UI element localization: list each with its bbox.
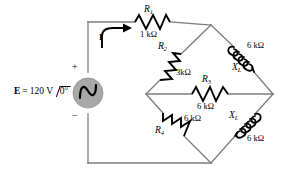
resistor-r1-ref: R1 bbox=[144, 5, 153, 15]
resistor-r3-ref: R3 bbox=[202, 75, 211, 85]
circuit-diagram: E=120 V0° + − I R1 1 kΩ R2 3kΩ XL 6 kΩ R… bbox=[0, 0, 283, 180]
resistor-r2-value: 3kΩ bbox=[176, 68, 191, 77]
current-arrow-icon bbox=[102, 28, 123, 48]
source-minus-terminal: − bbox=[72, 111, 78, 121]
source-symbol-e: E bbox=[14, 86, 20, 96]
resistor-r3-symbol bbox=[192, 87, 228, 101]
wire-r2-upper bbox=[181, 25, 211, 54]
source-plus-terminal: + bbox=[72, 62, 78, 72]
wire-xl1-lower bbox=[254, 72, 273, 94]
inductor-xl-upper-value: 6 kΩ bbox=[247, 41, 264, 50]
current-arrowhead-icon bbox=[123, 24, 132, 33]
resistor-r4-value: 6 kΩ bbox=[184, 114, 201, 123]
current-label: I bbox=[99, 33, 102, 42]
wire-r2-lower bbox=[146, 80, 160, 94]
wire-xl1-upper bbox=[211, 25, 234, 47]
wire-xl2-upper bbox=[255, 94, 273, 114]
wire-xl2-lower bbox=[211, 136, 235, 163]
source-magnitude: 120 V bbox=[30, 86, 53, 96]
wire-r4-lower bbox=[184, 136, 211, 163]
source-angle: 0° bbox=[60, 87, 69, 97]
source-label: E=120 V0° bbox=[14, 86, 67, 97]
resistor-r3-value: 6 kΩ bbox=[197, 102, 214, 111]
resistor-r2-ref: R2 bbox=[158, 42, 167, 52]
wire-top-right-segment bbox=[170, 22, 211, 25]
inductor-xl-lower-ref: XL bbox=[229, 111, 238, 121]
resistor-r1-symbol bbox=[135, 15, 170, 29]
wire-r4-upper bbox=[146, 94, 163, 113]
source-equals: = bbox=[22, 86, 27, 96]
inductor-xl-upper-ref: XL bbox=[232, 63, 241, 73]
resistor-r1-value: 1 kΩ bbox=[140, 30, 157, 39]
resistor-r4-ref: R4 bbox=[155, 126, 164, 136]
inductor-xl-lower-value: 6 kΩ bbox=[247, 134, 264, 143]
